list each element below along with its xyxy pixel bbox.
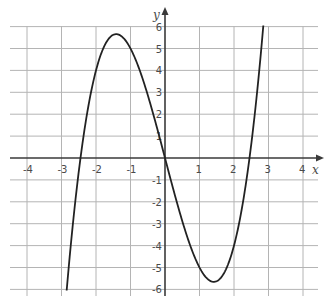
y-tick-label: 2 <box>156 109 162 120</box>
function-graph: -4-3-2-11234654321-1-2-3-4-5-6 x y <box>0 0 326 301</box>
x-tick-label: 3 <box>265 164 271 175</box>
y-tick-label: 6 <box>156 22 162 33</box>
x-tick-label: -2 <box>92 164 102 175</box>
x-tick-label: -4 <box>23 164 33 175</box>
y-tick-label: -2 <box>152 197 162 208</box>
y-tick-label: 5 <box>156 44 162 55</box>
x-tick-label: 2 <box>230 164 236 175</box>
y-tick-label: 4 <box>156 65 162 76</box>
x-tick-label: 4 <box>299 164 305 175</box>
x-axis-arrow-icon <box>316 155 324 162</box>
y-tick-label: -6 <box>152 284 162 295</box>
y-tick-label: -4 <box>152 241 162 252</box>
x-tick-label: -3 <box>58 164 68 175</box>
x-tick-label: -1 <box>127 164 137 175</box>
y-tick-label: 3 <box>156 87 162 98</box>
y-tick-label: -1 <box>152 175 162 186</box>
x-axis-label: x <box>312 163 319 177</box>
y-axis-label: y <box>152 8 160 22</box>
grid-lines <box>10 26 318 296</box>
y-tick-label: -3 <box>152 219 162 230</box>
y-axis-arrow-icon <box>162 7 169 15</box>
x-tick-label: 1 <box>196 164 202 175</box>
y-tick-label: -5 <box>152 263 162 274</box>
